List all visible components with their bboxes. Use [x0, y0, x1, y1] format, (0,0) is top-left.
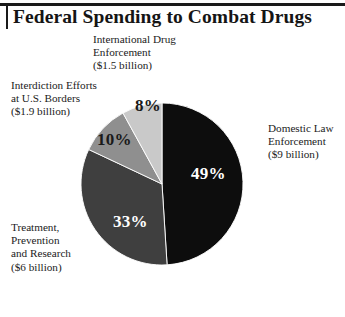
slice-value-interdiction-efforts: 10% [97, 130, 132, 150]
slice-value-international-drug-enforcement: 8% [135, 96, 161, 116]
pie-chart-svg [81, 103, 243, 265]
callout-label-interdiction-efforts: Interdiction Efforts at U.S. Borders ($1… [11, 79, 97, 119]
slice-value-treatment-prevention-research: 33% [113, 212, 148, 232]
slice-value-domestic-law-enforcement: 49% [191, 164, 226, 184]
callout-label-treatment-prevention-research: Treatment, Prevention and Research ($6 b… [11, 221, 71, 274]
pie-chart [81, 103, 243, 265]
page-title: Federal Spending to Combat Drugs [13, 4, 312, 29]
callout-label-international-drug-enforcement: International Drug Enforcement ($1.5 bil… [93, 33, 176, 73]
callout-label-domestic-law-enforcement: Domestic Law Enforcement ($9 billion) [268, 122, 334, 162]
header-left-rule [6, 6, 8, 29]
